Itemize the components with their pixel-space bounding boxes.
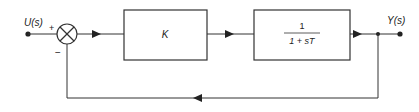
output-dot	[397, 31, 402, 36]
plant-box	[254, 10, 350, 60]
input-label: U(s)	[24, 17, 43, 28]
plus-sign: +	[49, 23, 54, 33]
plant-denominator: 1 + sT	[289, 36, 316, 46]
arrow-icon	[353, 30, 362, 38]
arrow-icon	[193, 94, 202, 102]
plant-numerator: 1	[299, 21, 304, 31]
output-label: Y(s)	[387, 15, 405, 26]
controller-block: K	[124, 10, 207, 60]
summing-junction: + −	[49, 23, 77, 58]
plant-block: 1 1 + sT	[254, 10, 350, 60]
output-node: Y(s)	[387, 15, 405, 37]
arrow-icon	[225, 30, 234, 38]
block-diagram: U(s) + − K 1 1 + sT Y(s)	[0, 0, 419, 112]
arrow-icon	[92, 30, 101, 38]
minus-sign: −	[55, 47, 61, 58]
